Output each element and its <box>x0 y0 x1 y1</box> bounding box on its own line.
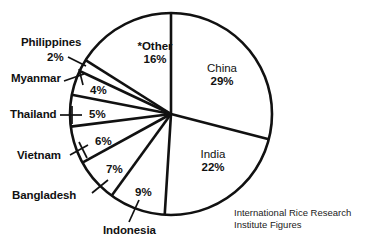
slice-label-philippines: Philippines <box>21 36 81 49</box>
slice-value-other: 16% <box>120 53 190 66</box>
slice-value-myanmar: 4% <box>90 84 107 97</box>
slice-value-china: 29% <box>191 75 253 88</box>
slice-label-china: China <box>191 62 253 75</box>
slice-value-vietnam: 6% <box>95 135 112 148</box>
slice-label-indonesia: Indonesia <box>103 224 156 237</box>
slice-value-thailand: 5% <box>89 108 106 121</box>
source-note-line1: International Rice Research <box>234 207 351 219</box>
slice-label-myanmar: Myanmar <box>11 72 61 85</box>
slice-label-thailand: Thailand <box>10 108 56 121</box>
slice-label-bangladesh: Bangladesh <box>12 189 76 202</box>
slice-value-philippines: 2% <box>47 51 64 64</box>
source-note: International Rice Research Institute Fi… <box>234 207 351 231</box>
slice-label-india: India <box>183 148 243 161</box>
source-note-line2: Institute Figures <box>234 219 351 231</box>
slice-value-bangladesh: 7% <box>106 163 123 176</box>
slice-value-india: 22% <box>183 161 243 174</box>
slice-label-vietnam: Vietnam <box>17 149 61 162</box>
pie-chart: Philippines 2% Myanmar 4% Thailand 5% Vi… <box>0 0 375 249</box>
slice-label-other: *Other <box>120 40 190 53</box>
slice-value-indonesia: 9% <box>135 186 152 199</box>
